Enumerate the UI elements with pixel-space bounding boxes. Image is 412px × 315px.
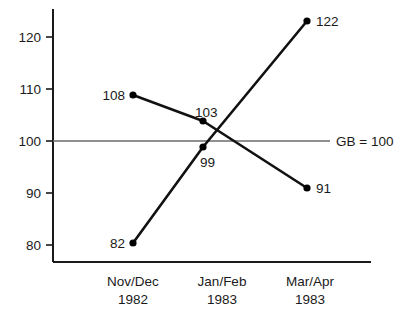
- y-tick-label-90: 90: [26, 186, 41, 201]
- line-chart: 120 110 100 90 80 GB = 100 108 103 91 82…: [0, 0, 412, 315]
- x-category-label-1-period: Nov/Dec: [107, 274, 159, 289]
- data-point-99: [199, 143, 206, 150]
- x-category-label-1-year: 1982: [118, 292, 148, 307]
- data-point-108: [129, 91, 136, 98]
- reference-line-label: GB = 100: [336, 134, 393, 149]
- data-point-122: [303, 17, 310, 24]
- data-label-91: 91: [316, 181, 331, 196]
- x-category-label-3-period: Mar/Apr: [286, 274, 335, 289]
- data-label-108: 108: [102, 88, 125, 103]
- y-tick-label-80: 80: [26, 238, 41, 253]
- chart-container: 120 110 100 90 80 GB = 100 108 103 91 82…: [0, 0, 412, 315]
- data-label-99: 99: [200, 155, 215, 170]
- y-tick-label-120: 120: [18, 30, 41, 45]
- data-point-82: [129, 239, 136, 246]
- data-label-82: 82: [110, 236, 125, 251]
- x-category-label-2-period: Jan/Feb: [198, 274, 247, 289]
- x-category-label-2-year: 1983: [207, 292, 237, 307]
- data-point-91: [303, 184, 310, 191]
- y-tick-label-110: 110: [19, 82, 41, 97]
- y-tick-label-100: 100: [18, 134, 41, 149]
- data-label-122: 122: [316, 14, 339, 29]
- x-category-label-3-year: 1983: [295, 292, 325, 307]
- data-label-103: 103: [195, 105, 218, 120]
